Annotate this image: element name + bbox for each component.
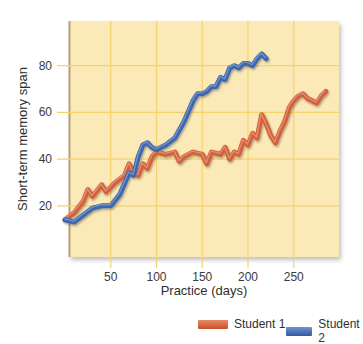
x-tick-label: 200 (238, 270, 258, 284)
y-tick-label: 60 (39, 105, 53, 119)
legend-item-student-1: Student 1 (198, 317, 285, 331)
student-1-swatch (198, 320, 228, 329)
student-2-swatch (286, 327, 312, 336)
legend: Student 1 Student 2 (0, 317, 357, 333)
y-tick-label: 40 (39, 152, 53, 166)
x-tick-label: 50 (104, 270, 118, 284)
x-tick-label: 150 (192, 270, 212, 284)
plot-background (69, 21, 339, 257)
legend-label: Student 1 (234, 317, 285, 331)
y-tick-labels: 20406080 (39, 59, 53, 213)
y-tick-label: 20 (39, 199, 53, 213)
x-tick-label: 100 (146, 270, 166, 284)
x-axis-label: Practice (days) (161, 283, 248, 298)
x-tick-label: 250 (284, 270, 304, 284)
x-tick-labels: 50100150200250 (104, 270, 304, 284)
y-tick-label: 80 (39, 59, 53, 73)
legend-item-student-2: Student 2 (286, 317, 363, 344)
legend-label: Student 2 (318, 317, 363, 344)
y-axis-label: Short-term memory span (15, 67, 30, 211)
